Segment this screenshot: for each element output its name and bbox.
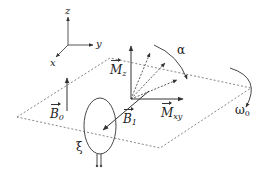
omega0-label: ω0: [235, 104, 250, 118]
b1-label: B1: [123, 113, 137, 127]
mz-label: Mz: [110, 64, 127, 78]
alpha-label: α: [177, 44, 185, 56]
coordinate-axes: [56, 17, 93, 57]
nmr-diagram: [0, 0, 277, 175]
y-axis-label: y: [96, 39, 102, 49]
tilted-magnetization-vectors: [131, 53, 177, 99]
x-axis-label: x: [50, 58, 56, 68]
x-axis: [56, 45, 68, 57]
rotating-plane: [17, 58, 251, 148]
mxy-label: Mxy: [161, 107, 182, 121]
z-axis-label: z: [65, 6, 70, 16]
coil-loop: [84, 98, 116, 154]
b0-label: B0: [50, 108, 64, 122]
omega0-arc: [230, 68, 251, 107]
coil-label: ξ: [76, 141, 83, 153]
